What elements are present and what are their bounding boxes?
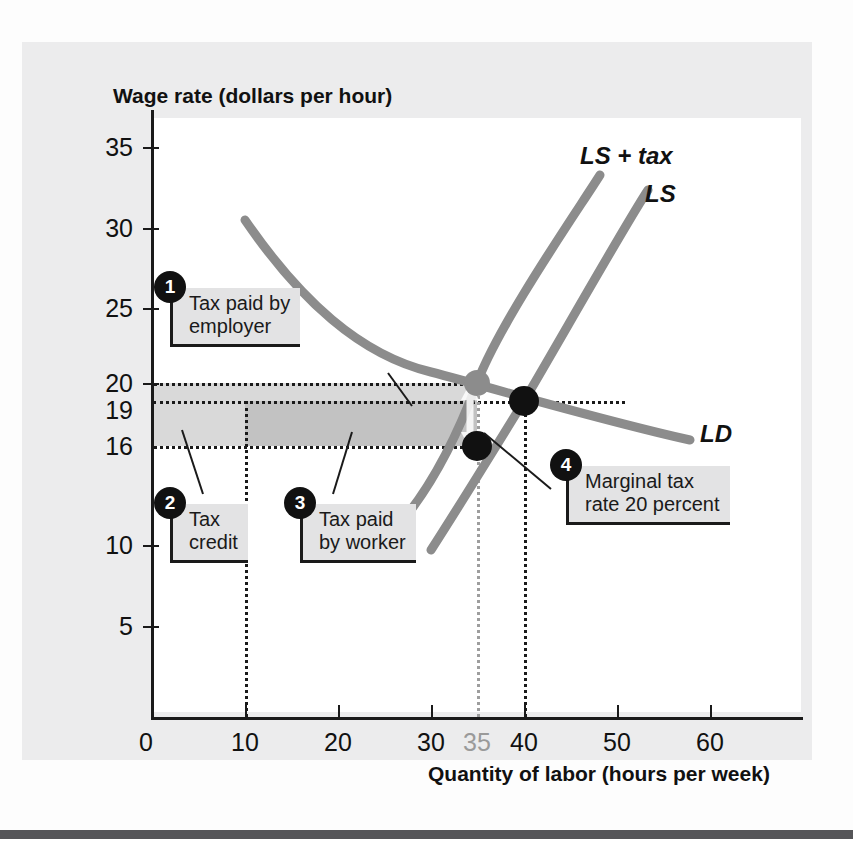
callout-1-line1: Tax paid by [189, 292, 290, 315]
footer-rule [0, 830, 853, 839]
callout-4-line1: Marginal tax [585, 470, 720, 493]
callout-2-badge: 2 [154, 487, 186, 519]
callout-1-box: Tax paid by employer [170, 288, 300, 347]
callout-3-badge: 3 [284, 487, 316, 519]
leader-line-1 [388, 373, 412, 406]
leader-line-2 [182, 430, 203, 494]
curve-label-ls-plus-tax: LS + tax [580, 142, 673, 170]
marker-35-20 [464, 370, 490, 396]
callout-4-line2: rate 20 percent [585, 493, 720, 516]
callout-3-line1: Tax paid [319, 508, 406, 531]
callout-2-line2: credit [189, 531, 238, 554]
curve-label-ld: LD [700, 420, 732, 448]
callout-1-badge: 1 [154, 271, 186, 303]
callout-2-line1: Tax [189, 508, 238, 531]
callout-3-line2: by worker [319, 531, 406, 554]
leader-line-4 [484, 433, 551, 489]
footer-space [0, 839, 853, 848]
leader-line-3 [333, 432, 352, 494]
callout-4-badge: 4 [550, 449, 582, 481]
callout-1-line2: employer [189, 315, 290, 338]
callout-4-box: Marginal tax rate 20 percent [566, 466, 730, 525]
figure-root: 35 30 25 20 19 16 10 5 0 10 20 30 35 40 … [0, 0, 853, 848]
marker-40-19 [509, 386, 539, 416]
curve-label-ls: LS [645, 180, 676, 208]
callout-3-box: Tax paid by worker [300, 504, 416, 563]
